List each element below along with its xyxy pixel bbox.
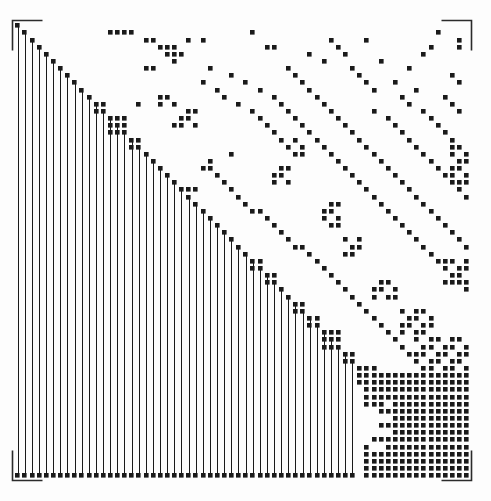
spy-plot-figure: 151 — [0, 0, 491, 501]
sparse-matrix-plot-canvas — [0, 0, 491, 501]
